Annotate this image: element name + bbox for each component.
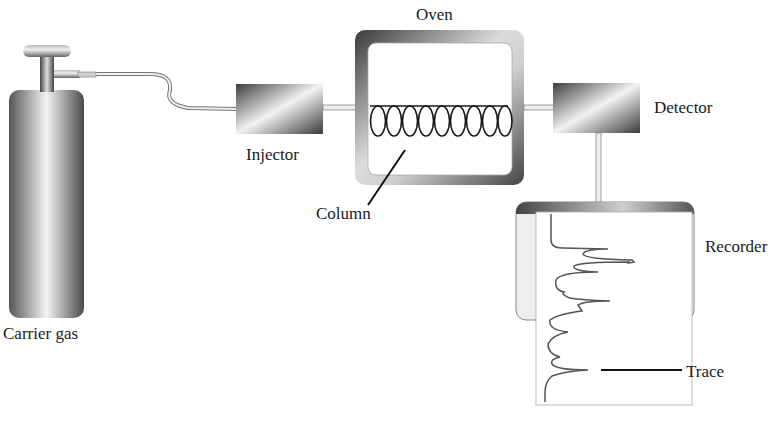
- detector-box: [553, 83, 640, 133]
- injector-box: [236, 84, 323, 134]
- label-carrier-gas: Carrier gas: [3, 325, 78, 342]
- gas-chromatograph-diagram: [0, 0, 782, 425]
- label-column: Column: [316, 205, 371, 222]
- pipe-oven-detector: [524, 105, 554, 110]
- label-injector: Injector: [246, 146, 299, 163]
- label-recorder: Recorder: [705, 238, 767, 255]
- label-trace: Trace: [686, 363, 724, 380]
- pipe-detector-recorder: [596, 133, 601, 203]
- pipe-injector-oven: [323, 105, 356, 110]
- label-oven: Oven: [416, 6, 453, 23]
- recorder-paper: [536, 212, 692, 405]
- label-detector: Detector: [654, 99, 713, 116]
- carrier-gas-cylinder: [9, 45, 96, 318]
